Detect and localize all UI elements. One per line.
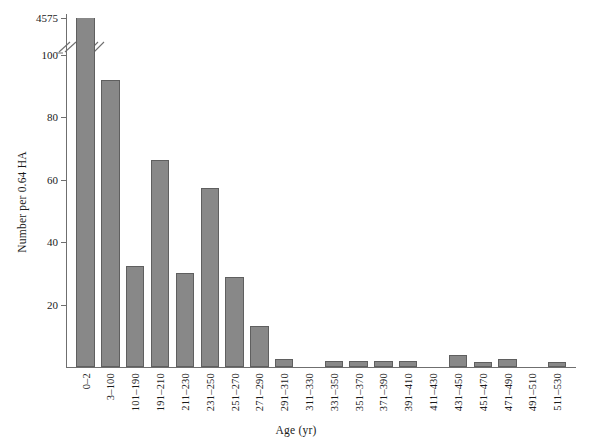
y-axis-line: [66, 14, 67, 368]
histogram-figure: Number per 0.64 HA Age (yr) 20406080100 …: [0, 0, 592, 445]
x-tick-label: 3–100: [105, 373, 116, 400]
x-tick-label: 0–2: [80, 373, 91, 389]
x-tick-label: 331–350: [328, 373, 339, 411]
x-tick-label: 311–330: [303, 373, 314, 411]
bar: [250, 326, 268, 367]
bar: [151, 160, 169, 367]
y-tick-label: 80: [47, 111, 58, 123]
y-tick-label: 60: [47, 174, 58, 186]
bar: [101, 80, 119, 367]
x-tick-label: 351–370: [353, 373, 364, 411]
tick-mark: [61, 242, 66, 243]
x-tick-label: 291–310: [279, 373, 290, 411]
bar: [76, 18, 94, 367]
x-tick-label: 491–510: [527, 373, 538, 411]
x-tick-label: 211–230: [179, 373, 190, 411]
x-tick-label: 471–490: [502, 373, 513, 411]
bar: [374, 361, 392, 367]
x-tick-label: 391–410: [403, 373, 414, 411]
x-tick-label: 251–270: [229, 373, 240, 411]
bar: [474, 362, 492, 367]
bar: [449, 355, 467, 367]
x-tick-label: 271–290: [254, 373, 265, 411]
x-axis-title: Age (yr): [0, 424, 592, 436]
bar: [126, 266, 144, 367]
x-axis-line: [66, 367, 576, 368]
y-tick-label: 100: [42, 49, 59, 61]
y-tick-label: 40: [47, 236, 58, 248]
bar: [176, 273, 194, 367]
plot-area: 20406080100 4575 0–23–100101–190191–2102…: [66, 14, 576, 368]
x-tick-label: 511–530: [552, 373, 563, 411]
bar: [548, 362, 566, 367]
bar: [498, 359, 516, 367]
x-tick-label: 231–250: [204, 373, 215, 411]
x-tick-label: 371–390: [378, 373, 389, 411]
tick-mark: [61, 18, 66, 19]
tick-mark: [61, 117, 66, 118]
bar: [399, 361, 417, 367]
y-axis-title: Number per 0.64 HA: [16, 122, 28, 282]
bar: [349, 361, 367, 367]
bar: [201, 188, 219, 367]
tick-mark: [61, 305, 66, 306]
bar: [325, 361, 343, 367]
y-tick-label-top: 4575: [36, 12, 58, 24]
x-tick-label: 411–430: [428, 373, 439, 411]
x-tick-label: 451–470: [477, 373, 488, 411]
x-tick-label: 101–190: [130, 373, 141, 411]
x-tick-label: 191–210: [155, 373, 166, 411]
bar: [225, 277, 243, 367]
bar: [275, 359, 293, 367]
y-tick-label: 20: [47, 299, 58, 311]
x-tick-label: 431–450: [452, 373, 463, 411]
tick-mark: [61, 180, 66, 181]
